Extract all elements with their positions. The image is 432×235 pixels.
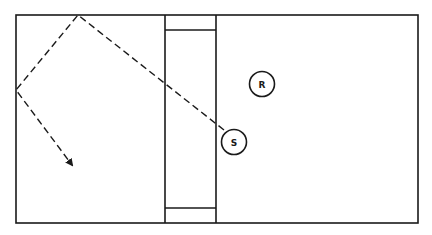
court-diagram: R S [0,0,432,235]
player-s-marker: S [222,130,247,155]
ball-path [16,15,224,165]
player-s-label: S [231,138,237,148]
player-r-marker: R [250,72,275,97]
court-outline [16,15,418,223]
player-r-label: R [259,80,266,90]
